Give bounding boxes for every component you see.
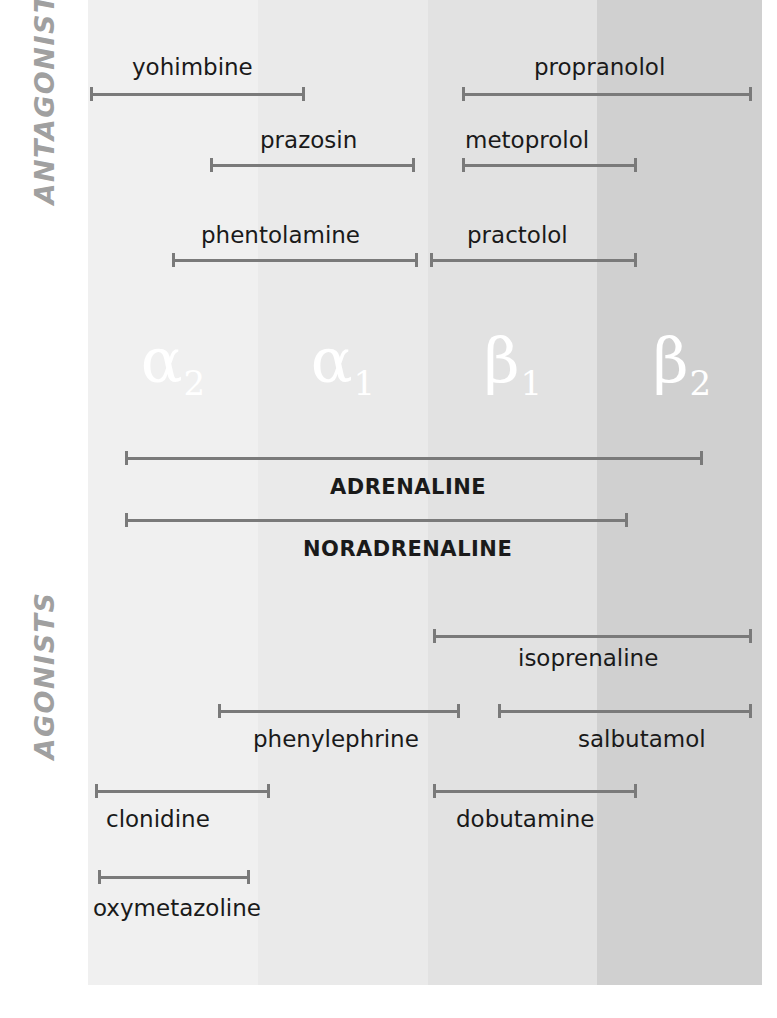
drug-bar-metoprolol [462, 158, 637, 172]
bar-line [462, 93, 752, 96]
receptor-base-glyph: α [141, 324, 183, 397]
bar-cap-left [218, 704, 221, 718]
bar-line [218, 710, 460, 713]
drug-label-noradrenaline: NORADRENALINE [303, 537, 512, 561]
bar-cap-right [267, 784, 270, 798]
bar-cap-right [634, 253, 637, 267]
receptor-chart-panel: yohimbine propranolol prazosin metoprolo… [88, 0, 762, 985]
drug-bar-practolol [430, 253, 637, 267]
receptor-subscript: 1 [354, 363, 376, 403]
bar-line [430, 259, 637, 262]
bar-line [95, 790, 270, 793]
drug-bar-oxymetazoline [98, 870, 250, 884]
drug-label-oxymetazoline: oxymetazoline [93, 895, 261, 921]
bar-cap-left [98, 870, 101, 884]
drug-bar-clonidine [95, 784, 270, 798]
bar-cap-left [90, 87, 93, 101]
drug-label-prazosin: prazosin [260, 127, 357, 153]
drug-label-clonidine: clonidine [106, 806, 210, 832]
receptor-band-alpha2 [88, 0, 258, 985]
drug-bar-phentolamine [172, 253, 418, 267]
bar-line [90, 93, 305, 96]
drug-label-yohimbine: yohimbine [132, 54, 253, 80]
bar-line [433, 790, 637, 793]
bar-cap-right [749, 87, 752, 101]
section-label-agonists: AGONISTS [29, 672, 60, 760]
bar-cap-right [700, 451, 703, 465]
bar-cap-right [634, 784, 637, 798]
drug-bar-noradrenaline [125, 513, 628, 527]
bar-cap-left [210, 158, 213, 172]
bar-cap-right [415, 253, 418, 267]
receptor-name-alpha2: α2 [88, 330, 258, 400]
drug-label-phentolamine: phentolamine [201, 222, 360, 248]
drug-label-salbutamol: salbutamol [578, 726, 706, 752]
drug-label-isoprenaline: isoprenaline [518, 645, 658, 671]
bar-cap-left [172, 253, 175, 267]
bar-cap-left [125, 451, 128, 465]
receptor-base-glyph: β [653, 324, 689, 397]
drug-bar-adrenaline [125, 451, 703, 465]
bar-line [210, 164, 415, 167]
bar-cap-left [433, 629, 436, 643]
bar-line [98, 876, 250, 879]
drug-bar-prazosin [210, 158, 415, 172]
drug-bar-yohimbine [90, 87, 305, 101]
bar-cap-left [462, 158, 465, 172]
drug-bar-dobutamine [433, 784, 637, 798]
bar-cap-right [457, 704, 460, 718]
drug-label-dobutamine: dobutamine [456, 806, 594, 832]
bar-cap-left [462, 87, 465, 101]
drug-bar-salbutamol [498, 704, 752, 718]
section-label-antagonists: ANTAGONISTS [29, 117, 60, 205]
receptor-subscript: 1 [521, 363, 543, 403]
drug-bar-phenylephrine [218, 704, 460, 718]
bar-cap-right [302, 87, 305, 101]
drug-label-phenylephrine: phenylephrine [253, 726, 419, 752]
bar-line [498, 710, 752, 713]
bar-cap-left [125, 513, 128, 527]
receptor-subscript: 2 [184, 363, 206, 403]
receptor-name-alpha1: α1 [258, 330, 428, 400]
drug-label-propranolol: propranolol [534, 54, 665, 80]
bar-line [125, 519, 628, 522]
bar-line [462, 164, 637, 167]
bar-line [172, 259, 418, 262]
bar-cap-right [625, 513, 628, 527]
receptor-band-beta2 [597, 0, 762, 985]
receptor-base-glyph: α [311, 324, 353, 397]
drug-bar-propranolol [462, 87, 752, 101]
bar-cap-right [749, 704, 752, 718]
receptor-base-glyph: β [484, 324, 520, 397]
bar-cap-left [498, 704, 501, 718]
receptor-name-beta2: β2 [597, 330, 762, 400]
bar-cap-right [412, 158, 415, 172]
drug-bar-isoprenaline [433, 629, 752, 643]
bar-line [125, 457, 703, 460]
drug-label-metoprolol: metoprolol [465, 127, 589, 153]
bar-line [433, 635, 752, 638]
bar-cap-left [433, 784, 436, 798]
bar-cap-right [749, 629, 752, 643]
bar-cap-left [430, 253, 433, 267]
bar-cap-left [95, 784, 98, 798]
receptor-subscript: 2 [690, 363, 712, 403]
bar-cap-right [634, 158, 637, 172]
drug-label-practolol: practolol [467, 222, 568, 248]
drug-label-adrenaline: ADRENALINE [330, 475, 486, 499]
bar-cap-right [247, 870, 250, 884]
receptor-name-beta1: β1 [428, 330, 598, 400]
